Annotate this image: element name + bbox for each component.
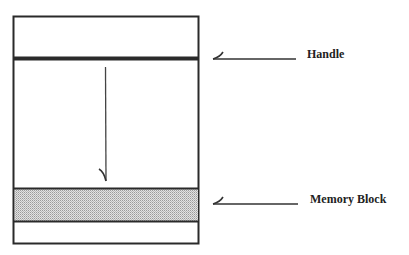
memory-block-label: Memory Block — [310, 192, 386, 207]
memory-block — [15, 189, 198, 222]
handle-label: Handle — [307, 47, 344, 62]
memory-block-callout-line — [213, 197, 298, 204]
handle-bar — [13, 57, 199, 61]
handle-callout-line — [213, 52, 296, 59]
memory-diagram — [0, 0, 409, 255]
pointer-arrow-icon — [99, 67, 106, 181]
